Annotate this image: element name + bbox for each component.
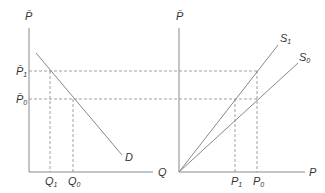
supply-demand-diagram: P̄ Q D P̄1 P̄0 Q1 Q0 P̄ P S1 S0 P1 P0 bbox=[0, 0, 325, 193]
demand-curve bbox=[36, 53, 122, 155]
quantity-label-q0: Q0 bbox=[68, 175, 81, 188]
demand-label: D bbox=[125, 151, 133, 163]
price-label-p1: P̄1 bbox=[16, 65, 27, 78]
right-x-axis-label: P bbox=[309, 166, 317, 178]
price-label-p0: P̄0 bbox=[16, 93, 27, 106]
right-y-axis-label: P̄ bbox=[176, 10, 184, 22]
supply-curve-s1 bbox=[179, 45, 278, 172]
left-y-axis-label: P̄ bbox=[25, 10, 33, 22]
quantity-label-q1: Q1 bbox=[45, 175, 58, 188]
price-label-right-p0: P0 bbox=[253, 175, 264, 188]
right-axes bbox=[179, 28, 305, 172]
supply-curve-s0 bbox=[179, 63, 298, 172]
left-x-axis-label: Q bbox=[158, 166, 167, 178]
left-axes bbox=[29, 28, 153, 172]
dashed-guides bbox=[29, 71, 257, 172]
s1-label: S1 bbox=[280, 32, 291, 45]
price-label-right-p1: P1 bbox=[231, 175, 242, 188]
s0-label: S0 bbox=[299, 51, 310, 64]
